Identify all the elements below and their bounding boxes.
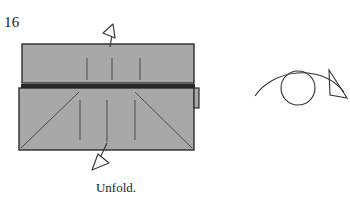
turn-over-circle: [281, 71, 315, 105]
right-edge-flap: [194, 88, 199, 108]
turn-over-arc: [255, 73, 344, 96]
turn-over-symbol: [255, 70, 347, 105]
unfold-arrow-down-head: [92, 154, 109, 170]
origami-step-figure: 16 Unfold.: [0, 0, 350, 203]
origami-diagram: [0, 0, 350, 203]
step-caption: Unfold.: [0, 180, 232, 196]
upper-paper-panel: [22, 44, 194, 83]
turn-over-arrowhead: [329, 70, 347, 98]
fold-shadow-band: [21, 84, 195, 88]
unfold-arrow-up-head: [103, 24, 115, 38]
